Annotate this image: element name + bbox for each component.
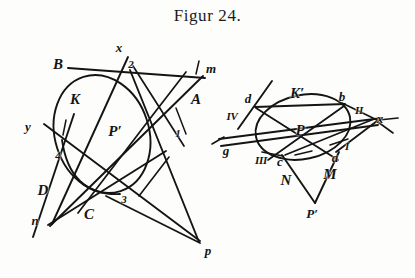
label-roman-I: I bbox=[345, 141, 349, 152]
line-1-lower bbox=[139, 157, 169, 196]
label-K: K bbox=[70, 92, 80, 107]
label-roman-IV: IV bbox=[226, 111, 237, 122]
label-C: C bbox=[84, 207, 94, 222]
label-1: 1 bbox=[175, 128, 181, 139]
label-x-right: x bbox=[377, 112, 384, 125]
label-roman-III: III bbox=[255, 155, 267, 166]
label-y: y bbox=[25, 120, 31, 133]
label-P: P bbox=[295, 123, 304, 138]
line-top-d-c bbox=[238, 81, 272, 129]
label-N: N bbox=[281, 173, 292, 188]
figure-plate: Figur 24. bbox=[0, 0, 415, 278]
label-P-prime-right: P′ bbox=[306, 207, 318, 220]
label-2: 2 bbox=[128, 59, 134, 70]
chord-d-b bbox=[255, 104, 345, 107]
line-y-4-3-p bbox=[44, 124, 200, 241]
line-2-p bbox=[130, 70, 199, 242]
label-3: 3 bbox=[121, 194, 127, 205]
label-p: p bbox=[205, 244, 212, 257]
label-n: n bbox=[31, 214, 38, 227]
label-4: 4 bbox=[55, 150, 61, 161]
label-g: g bbox=[223, 144, 230, 157]
label-m: m bbox=[206, 62, 216, 75]
line-C-p bbox=[106, 196, 200, 243]
label-a: a bbox=[332, 151, 339, 164]
label-x-left: x bbox=[116, 41, 123, 54]
label-A: A bbox=[191, 92, 201, 107]
label-c: c bbox=[277, 155, 283, 168]
label-b: b bbox=[339, 90, 346, 103]
tick-m bbox=[196, 61, 199, 74]
line-n-1 bbox=[48, 151, 166, 225]
tick-N bbox=[295, 151, 312, 155]
label-B: B bbox=[53, 57, 63, 72]
label-D: D bbox=[38, 183, 49, 198]
right-diagram-group bbox=[212, 81, 398, 203]
label-K-prime: K′ bbox=[290, 86, 304, 101]
figure-drawing bbox=[0, 0, 415, 278]
label-roman-II: II bbox=[355, 105, 363, 116]
label-P-prime-left: P′ bbox=[108, 124, 121, 139]
tick-4 bbox=[63, 120, 66, 135]
label-d: d bbox=[245, 92, 252, 105]
label-M: M bbox=[323, 167, 336, 182]
